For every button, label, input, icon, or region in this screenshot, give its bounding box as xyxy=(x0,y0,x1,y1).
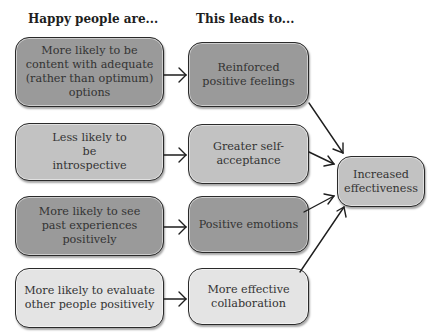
box-text: More likely to evaluate other people pos… xyxy=(24,284,155,312)
box-text: Increased effectiveness xyxy=(342,168,420,196)
box-text: Positive emotions xyxy=(199,218,298,232)
arrow-icon xyxy=(164,292,186,306)
box-text: Reinforced positive feelings xyxy=(195,61,302,89)
box-text: More likely to see past experiences posi… xyxy=(26,205,153,247)
box-text: Less likely to be introspective xyxy=(46,131,133,173)
box-past-experiences-positively: More likely to see past experiences posi… xyxy=(15,196,164,256)
box-positive-emotions: Positive emotions xyxy=(188,196,309,253)
box-text: Greater self-acceptance xyxy=(203,140,294,168)
box-content-adequate-options: More likely to be content with adequate … xyxy=(15,37,164,107)
box-text: More likely to be content with adequate … xyxy=(22,44,157,100)
header-happy-people: Happy people are... xyxy=(28,12,158,26)
arrow-icon xyxy=(309,152,334,166)
box-increased-effectiveness: Increased effectiveness xyxy=(337,156,425,207)
box-greater-self-acceptance: Greater self-acceptance xyxy=(188,124,309,184)
arrow-icon xyxy=(164,148,186,162)
arrow-icon xyxy=(309,103,343,153)
box-reinforced-positive-feelings: Reinforced positive feelings xyxy=(188,42,309,107)
arrow-icon xyxy=(164,220,186,234)
box-more-effective-collaboration: More effective collaboration xyxy=(188,268,309,325)
box-evaluate-others-positively: More likely to evaluate other people pos… xyxy=(15,268,164,328)
box-text: More effective collaboration xyxy=(203,283,294,311)
arrow-icon xyxy=(164,68,186,82)
header-leads-to: This leads to... xyxy=(196,12,294,26)
box-less-introspective: Less likely to be introspective xyxy=(15,123,164,181)
